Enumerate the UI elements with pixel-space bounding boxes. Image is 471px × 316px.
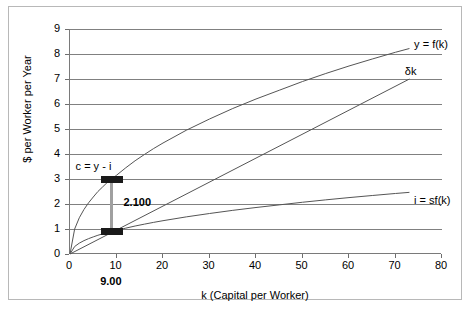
y-tick-label: 9	[38, 23, 60, 34]
y-tick-label: 8	[38, 48, 60, 59]
y-tick-label: 6	[38, 98, 60, 109]
gap-marker-bottom	[101, 228, 123, 235]
y-tick-label: 7	[38, 73, 60, 84]
curves-svg	[70, 29, 442, 254]
x-tick-label: 40	[240, 259, 270, 271]
y-tick-label: 2	[38, 198, 60, 209]
x-axis-title: k (Capital per Worker)	[69, 289, 441, 301]
y-tick-label: 4	[38, 148, 60, 159]
gap-marker-top	[101, 176, 123, 183]
plot-area: c = y - i 2.100 y = f(k)δki = sf(k)	[69, 29, 441, 254]
x-tick-mark	[348, 254, 349, 258]
x-tick-mark	[302, 254, 303, 258]
x-tick-label: 60	[333, 259, 363, 271]
x-tick-label: 10	[101, 259, 131, 271]
x-tick-mark	[395, 254, 396, 258]
y-tick-label: 0	[38, 248, 60, 259]
curve-label: δk	[405, 65, 417, 77]
curve-label: i = sf(k)	[414, 194, 450, 206]
y-axis-title: $ per Worker per Year	[21, 9, 33, 209]
consumption-label: c = y - i	[76, 160, 112, 172]
x-tick-mark	[162, 254, 163, 258]
curve-y-f-k-	[70, 49, 409, 255]
consumption-gap-value: 2.100	[123, 196, 151, 208]
y-tick-label: 1	[38, 223, 60, 234]
y-tick-label: 3	[38, 173, 60, 184]
x-tick-mark	[209, 254, 210, 258]
chart-frame: $ per Worker per Year 0123456789 c = y -…	[8, 6, 462, 300]
x-tick-label: 30	[194, 259, 224, 271]
x-tick-label: 70	[380, 259, 410, 271]
x-tick-label: 0	[54, 259, 84, 271]
x-tick-label: 80	[426, 259, 456, 271]
consumption-gap-bar	[110, 179, 113, 232]
curve-label: y = f(k)	[414, 38, 448, 50]
x-tick-mark	[441, 254, 442, 258]
x-tick-label: 20	[147, 259, 177, 271]
y-tick-label: 5	[38, 123, 60, 134]
y-tick-mark	[65, 254, 69, 255]
x-tick-mark	[255, 254, 256, 258]
x-tick-label: 50	[287, 259, 317, 271]
steady-state-k-label: 9.00	[91, 275, 131, 287]
x-tick-mark	[116, 254, 117, 258]
curve-i-sf-k-	[70, 192, 409, 254]
